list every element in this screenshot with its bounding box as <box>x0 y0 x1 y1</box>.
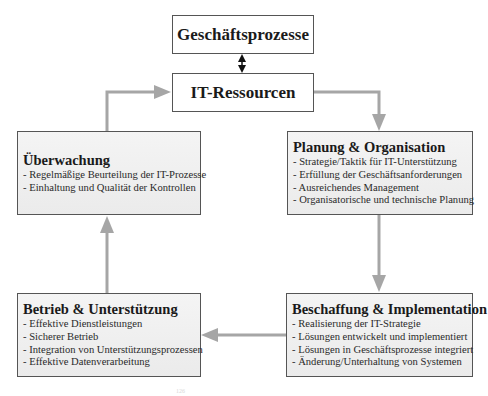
beschaffung-item: - Lösungen in Geschäftsprozesse integrie… <box>292 344 472 357</box>
planung-item: - Erfüllung der Geschäftsanforderungen <box>293 169 472 182</box>
ueberwachung-box: Überwachung - Regelmäßige Beurteilung de… <box>17 131 201 215</box>
ueberwachung-item: - Einhaltung und Qualität der Kontrollen <box>23 182 200 195</box>
geschaeftsprozesse-box: Geschäftsprozesse <box>172 15 314 54</box>
it-ressourcen-box: IT-Ressourcen <box>172 73 314 112</box>
betrieb-unterstuetzung-box: Betrieb & Unterstützung - Effektive Dien… <box>17 293 201 377</box>
beschaffung-item: - Änderung/Unterhaltung von Systemen <box>292 356 472 369</box>
arrow-it-ressourcen-to-planung <box>314 92 379 116</box>
ueberwachung-item: - Regelmäßige Beurteilung der IT-Prozess… <box>23 169 200 182</box>
planung-item: - Organisatorische und technische Planun… <box>293 194 472 207</box>
footnote-mark: 126 <box>176 388 185 394</box>
beschaffung-implementation-box: Beschaffung & Implementation - Realisier… <box>286 293 473 377</box>
planung-item: - Ausreichendes Management <box>293 182 472 195</box>
ueberwachung-title: Überwachung <box>23 152 200 169</box>
beschaffung-item: - Realisierung der IT-Strategie <box>292 318 472 331</box>
betrieb-item: - Effektive Dienstleistungen <box>23 318 200 331</box>
arrowhead-into-it-ressourcen <box>154 85 171 99</box>
geschaeftsprozesse-label: Geschäftsprozesse <box>177 25 309 45</box>
betrieb-unterstuetzung-title: Betrieb & Unterstützung <box>23 301 200 318</box>
betrieb-item: - Effektive Datenverarbeitung <box>23 356 200 369</box>
arrowhead-into-ueberwachung <box>100 216 114 233</box>
arrow-ueberwachung-to-it-ressourcen <box>107 92 156 131</box>
planung-organisation-title: Planung & Organisation <box>293 139 472 156</box>
arrowhead-into-planung <box>372 114 386 131</box>
beschaffung-implementation-title: Beschaffung & Implementation <box>292 301 472 318</box>
arrowhead-into-beschaffung <box>372 275 386 292</box>
arrowhead-down-it-ressourcen <box>238 65 246 73</box>
arrowhead-up-geschaeftsprozesse <box>238 54 246 62</box>
betrieb-item: - Integration von Unterstützungsprozesse… <box>23 344 200 357</box>
it-ressourcen-label: IT-Ressourcen <box>191 83 296 103</box>
beschaffung-item: - Lösungen entwickelt und implementiert <box>292 331 472 344</box>
arrowhead-into-betrieb <box>201 328 218 342</box>
planung-organisation-box: Planung & Organisation - Strategie/Takti… <box>287 131 473 215</box>
planung-item: - Strategie/Taktik für IT-Unterstützung <box>293 156 472 169</box>
betrieb-item: - Sicherer Betrieb <box>23 331 200 344</box>
